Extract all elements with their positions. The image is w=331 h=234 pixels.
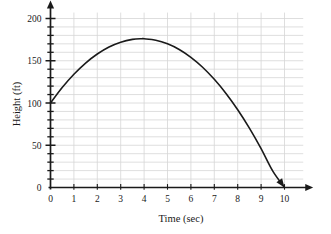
y-tick-label: 50 [32,141,42,151]
x-tick-label: 2 [95,194,100,204]
x-tick-label: 10 [280,194,290,204]
x-tick-label: 6 [189,194,194,204]
y-tick-label: 0 [37,183,42,193]
x-tick-label: 1 [72,194,77,204]
x-tick-label: 7 [212,194,217,204]
x-tick-label: 0 [48,194,53,204]
x-tick-label: 8 [235,194,240,204]
x-tick-label: 9 [259,194,264,204]
y-tick-label: 150 [27,56,42,66]
chart-container: 012345678910 050100150200 Time (sec) Hei… [0,0,331,234]
x-tick-label: 5 [165,194,170,204]
y-tick-label: 200 [27,14,42,24]
height-vs-time-chart: 012345678910 050100150200 Time (sec) Hei… [0,0,331,234]
x-axis-title: Time (sec) [159,213,204,225]
y-axis-title: Height (ft) [11,81,23,126]
x-tick-label: 3 [118,194,123,204]
x-tick-label: 4 [142,194,147,204]
y-tick-label: 100 [27,99,42,109]
